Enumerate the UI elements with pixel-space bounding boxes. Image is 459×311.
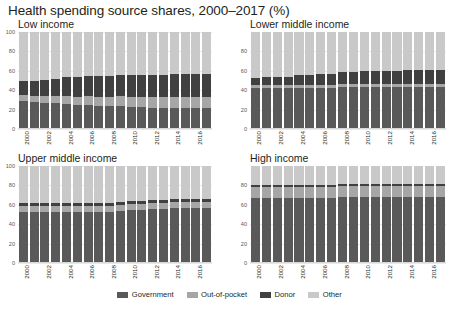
y-axis-low-income: 020406080100 — [0, 32, 16, 129]
bar-segment-out-of-pocket — [202, 97, 211, 108]
bar-2006[interactable] — [84, 32, 93, 129]
bar-2017[interactable] — [202, 166, 211, 263]
bar-2001[interactable] — [30, 166, 39, 263]
bar-2015[interactable] — [181, 166, 190, 263]
bar-2007[interactable] — [94, 166, 103, 263]
bar-2012[interactable] — [382, 166, 391, 263]
x-tick-label: 2012 — [153, 131, 160, 145]
bar-2015[interactable] — [414, 32, 423, 129]
bar-2008[interactable] — [338, 32, 347, 129]
bar-2017[interactable] — [202, 32, 211, 129]
bar-segment-out-of-pocket — [338, 186, 347, 197]
bar-2014[interactable] — [403, 32, 412, 129]
bar-2003[interactable] — [51, 166, 60, 263]
legend-item-government[interactable]: Government — [117, 290, 173, 299]
bar-2016[interactable] — [425, 32, 434, 129]
bar-2008[interactable] — [105, 166, 114, 263]
bar-2012[interactable] — [148, 32, 157, 129]
bar-2014[interactable] — [403, 166, 412, 263]
bar-2005[interactable] — [305, 166, 314, 263]
bar-2015[interactable] — [181, 32, 190, 129]
bar-2007[interactable] — [327, 32, 336, 129]
bar-2004[interactable] — [294, 32, 303, 129]
bar-2009[interactable] — [116, 32, 125, 129]
bar-2011[interactable] — [371, 166, 380, 263]
bar-2002[interactable] — [40, 32, 49, 129]
bar-2007[interactable] — [94, 32, 103, 129]
bar-2004[interactable] — [62, 32, 71, 129]
bar-2000[interactable] — [19, 32, 28, 129]
bar-2005[interactable] — [305, 32, 314, 129]
bar-2010[interactable] — [127, 166, 136, 263]
bar-2013[interactable] — [159, 166, 168, 263]
bar-segment-government — [316, 88, 325, 129]
bar-2017[interactable] — [436, 166, 445, 263]
bar-2000[interactable] — [251, 166, 260, 263]
x-tick-label: 2002 — [277, 265, 284, 279]
bar-2005[interactable] — [73, 166, 82, 263]
bar-2016[interactable] — [191, 166, 200, 263]
bar-2001[interactable] — [262, 32, 271, 129]
bar-2011[interactable] — [137, 166, 146, 263]
bar-2016[interactable] — [425, 166, 434, 263]
bar-segment-government — [414, 87, 423, 129]
bar-2001[interactable] — [30, 32, 39, 129]
bar-2011[interactable] — [371, 32, 380, 129]
bar-2017[interactable] — [436, 32, 445, 129]
bar-2003[interactable] — [284, 166, 293, 263]
bar-segment-donor — [30, 81, 39, 97]
bar-segment-other — [349, 166, 358, 184]
panel-title-high-income: High income — [250, 152, 308, 164]
bar-2002[interactable] — [273, 32, 282, 129]
bar-2000[interactable] — [19, 166, 28, 263]
bar-2009[interactable] — [349, 32, 358, 129]
bar-2008[interactable] — [338, 166, 347, 263]
bar-2013[interactable] — [392, 32, 401, 129]
bar-2014[interactable] — [170, 166, 179, 263]
x-tick-label: 2008 — [343, 131, 350, 145]
legend-item-donor[interactable]: Donor — [260, 290, 295, 299]
bar-2002[interactable] — [40, 166, 49, 263]
bar-segment-out-of-pocket — [137, 97, 146, 107]
bar-2009[interactable] — [349, 166, 358, 263]
bar-2014[interactable] — [170, 32, 179, 129]
x-tick-label: 2014 — [408, 265, 415, 279]
bar-2006[interactable] — [84, 166, 93, 263]
legend-item-other[interactable]: Other — [308, 290, 342, 299]
bar-2011[interactable] — [137, 32, 146, 129]
bar-2000[interactable] — [251, 32, 260, 129]
bar-2010[interactable] — [127, 32, 136, 129]
bar-2013[interactable] — [159, 32, 168, 129]
bar-2010[interactable] — [360, 166, 369, 263]
bar-2004[interactable] — [294, 166, 303, 263]
bar-segment-government — [251, 88, 260, 129]
bar-2013[interactable] — [392, 166, 401, 263]
legend-item-out-of-pocket[interactable]: Out-of-pocket — [187, 290, 248, 299]
bar-2016[interactable] — [191, 32, 200, 129]
bar-segment-other — [170, 32, 179, 74]
bar-group — [250, 166, 446, 263]
bar-2009[interactable] — [116, 166, 125, 263]
bar-2006[interactable] — [316, 166, 325, 263]
bar-2010[interactable] — [360, 32, 369, 129]
bar-segment-other — [40, 166, 49, 203]
bar-2012[interactable] — [382, 32, 391, 129]
bar-2002[interactable] — [273, 166, 282, 263]
bar-segment-out-of-pocket — [414, 186, 423, 197]
bar-segment-other — [436, 32, 445, 70]
bar-2004[interactable] — [62, 166, 71, 263]
bar-segment-government — [170, 208, 179, 263]
bar-2001[interactable] — [262, 166, 271, 263]
bar-2008[interactable] — [105, 32, 114, 129]
bar-2012[interactable] — [148, 166, 157, 263]
bar-2003[interactable] — [51, 32, 60, 129]
bar-2005[interactable] — [73, 32, 82, 129]
bar-segment-other — [181, 166, 190, 199]
bar-2015[interactable] — [414, 166, 423, 263]
bar-segment-donor — [116, 75, 125, 96]
bar-2003[interactable] — [284, 32, 293, 129]
bar-2006[interactable] — [316, 32, 325, 129]
bar-2007[interactable] — [327, 166, 336, 263]
bar-segment-other — [84, 32, 93, 76]
bar-segment-government — [262, 198, 271, 263]
